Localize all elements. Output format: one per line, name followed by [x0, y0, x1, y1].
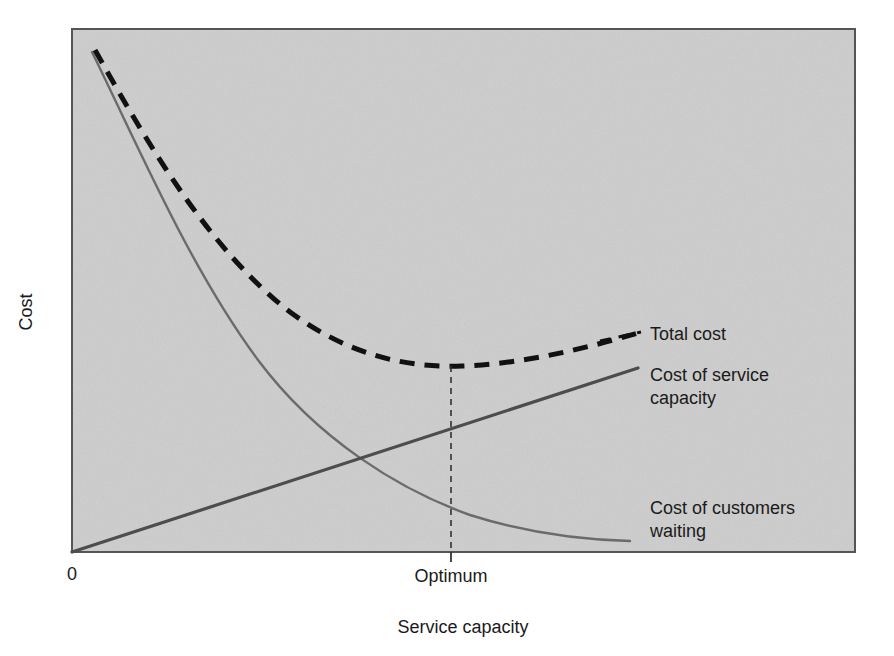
x-axis-tick-label-optimum: Optimum — [414, 566, 487, 586]
series-label-customers-waiting-line1: Cost of customers — [650, 498, 795, 518]
series-label-service-capacity-line2: capacity — [650, 388, 716, 408]
series-label-service-capacity-line1: Cost of service — [650, 365, 769, 385]
series-label-customers-waiting-line2: waiting — [649, 521, 706, 541]
plot-area-texture — [72, 29, 855, 552]
x-axis-tick-label-zero: 0 — [67, 564, 77, 584]
queuing-cost-chart-figure: Cost Service capacity 0 Optimum Total co… — [0, 0, 894, 656]
series-label-total-cost: Total cost — [650, 324, 726, 344]
y-axis-label: Cost — [16, 293, 36, 330]
x-axis-label: Service capacity — [397, 617, 528, 637]
chart-canvas: Cost Service capacity 0 Optimum Total co… — [0, 0, 894, 656]
